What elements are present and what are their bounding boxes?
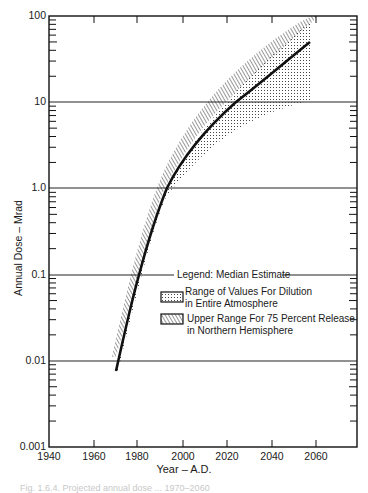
- xtick-label-2040: 2040: [252, 450, 292, 462]
- legend-title: Legend: Median Estimate: [177, 269, 290, 281]
- ytick-label-100: 100: [2, 9, 46, 21]
- xtick-label-2060: 2060: [296, 450, 336, 462]
- legend-swatch-dotted: [161, 292, 183, 302]
- xtick-label-1960: 1960: [74, 450, 114, 462]
- ytick-label-10: 10: [2, 95, 46, 107]
- legend-entry-hatched-line1: Upper Range For 75 Percent Release: [187, 313, 355, 325]
- legend-entry-hatched-line2: in Northern Hemisphere: [187, 325, 293, 337]
- xtick-label-2000: 2000: [163, 450, 203, 462]
- xtick-label-1980: 1980: [117, 450, 157, 462]
- y-axis-label: Annual Dose – Mrad: [12, 193, 24, 303]
- ytick-label-0.1: 0.1: [2, 268, 46, 280]
- xtick-label-1940: 1940: [29, 450, 69, 462]
- ytick-label-1: 1.0: [2, 181, 46, 193]
- xtick-label-2020: 2020: [207, 450, 247, 462]
- legend-swatch-hatched: [161, 314, 183, 324]
- x-axis-label: Year – A.D.: [0, 463, 368, 475]
- legend-entry-dotted-line2: in Entire Atmosphere: [185, 298, 278, 310]
- ytick-label-0.01: 0.01: [2, 354, 46, 366]
- legend-entry-dotted-line1: Range of Values For Dilution: [185, 286, 312, 298]
- figure-caption: Fig. 1.6.4. Projected annual dose ... 19…: [20, 483, 210, 493]
